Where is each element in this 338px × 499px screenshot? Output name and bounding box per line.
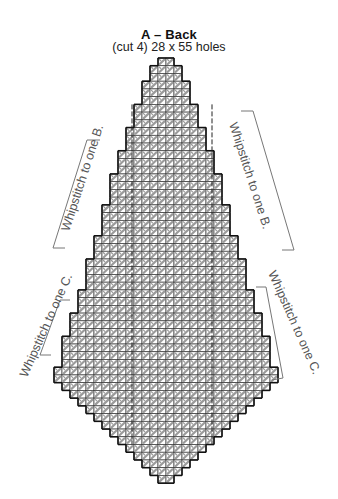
annotation-right-c: Whipstitch to one C. [265, 269, 323, 377]
grid-cells [54, 58, 278, 483]
annotation-left-b: Whipstitch to one B. [59, 123, 107, 233]
plastic-canvas-grid-diagram: Whipstitch to one B. Whipstitch to one B… [0, 0, 338, 499]
annotation-right-b: Whipstitch to one B. [226, 121, 274, 231]
